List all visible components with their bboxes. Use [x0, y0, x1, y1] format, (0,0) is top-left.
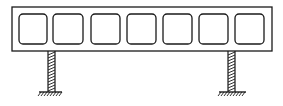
hollow-core-beam: [12, 7, 272, 51]
beam-cell-opening: [19, 14, 47, 44]
beam-cell-opening: [163, 14, 192, 44]
beam-diagram: [0, 0, 283, 106]
beam-cell-opening: [53, 14, 83, 44]
beam-cell-opening: [235, 14, 264, 44]
left-column: [38, 51, 62, 96]
right-column: [218, 51, 246, 96]
beam-cell-opening: [91, 14, 120, 44]
beam-cell-opening: [199, 14, 228, 44]
column-supports: [38, 51, 246, 96]
beam-cell-opening: [127, 14, 156, 44]
diagram-canvas: [0, 0, 283, 106]
